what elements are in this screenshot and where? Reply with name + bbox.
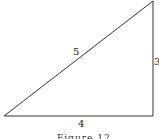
vertical-side-label: 3 [154, 57, 159, 67]
right-triangle [4, 1, 153, 116]
base-label: 4 [78, 119, 84, 129]
figure-caption: Figure 12 [57, 133, 111, 139]
hypotenuse-label: 5 [73, 47, 79, 57]
